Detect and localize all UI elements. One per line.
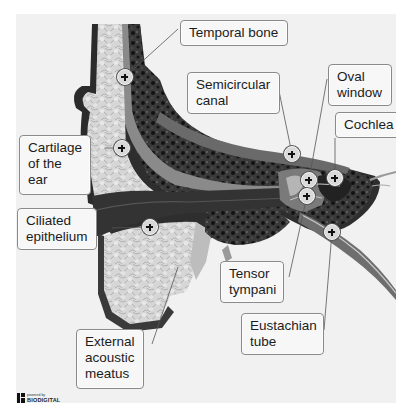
label-cartilage-of-the-ear[interactable]: Cartilage of the ear xyxy=(19,135,91,195)
label-oval-window[interactable]: Oval window xyxy=(328,64,392,106)
hotspot-ciliated-epithelium[interactable] xyxy=(142,219,158,235)
label-external-acoustic-meatus[interactable]: External acoustic meatus xyxy=(76,329,144,389)
label-temporal-bone[interactable]: Temporal bone xyxy=(180,20,288,46)
brand-name: BIODIGITAL xyxy=(27,397,60,403)
biodigital-mark-icon xyxy=(17,393,25,403)
label-ciliated-epithelium[interactable]: Ciliated epithelium xyxy=(17,208,97,250)
hotspot-tensor-tympani[interactable] xyxy=(299,188,315,204)
hotspot-semicircular-canal[interactable] xyxy=(284,146,300,162)
biodigital-logo: powered by BIODIGITAL xyxy=(17,393,60,403)
hotspot-oval-window[interactable] xyxy=(301,172,317,188)
label-cochlea[interactable]: Cochlea xyxy=(335,112,396,138)
label-tensor-tympani[interactable]: Tensor tympani xyxy=(220,261,284,303)
hotspot-cartilage-of-the-ear[interactable] xyxy=(114,140,130,156)
hotspot-cochlea[interactable] xyxy=(327,170,343,186)
label-semicircular-canal[interactable]: Semicircular canal xyxy=(187,72,280,114)
label-eustachian-tube[interactable]: Eustachian tube xyxy=(241,313,324,355)
anatomy-viewer: Temporal bone Semicircular canal Oval wi… xyxy=(16,14,396,403)
hotspot-eustachian-tube[interactable] xyxy=(324,224,340,240)
hotspot-temporal-bone[interactable] xyxy=(117,69,133,85)
